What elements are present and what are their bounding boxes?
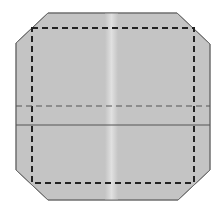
fold-diagram — [0, 0, 219, 213]
